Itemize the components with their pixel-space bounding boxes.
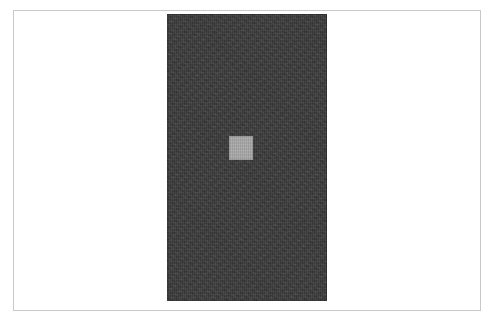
figure-border — [13, 10, 481, 311]
light-gray-square-marker — [229, 136, 253, 160]
figure-canvas — [0, 0, 496, 321]
